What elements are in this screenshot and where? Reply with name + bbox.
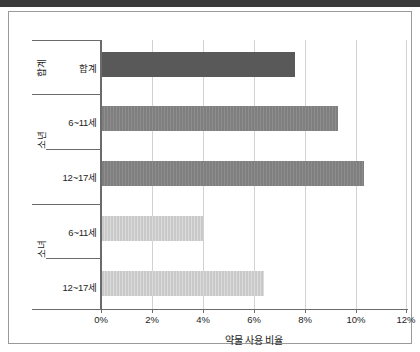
cat-right-border xyxy=(100,40,101,309)
xtick-label-0pct: 0% xyxy=(94,314,108,325)
xtick-label-4pct: 4% xyxy=(196,314,210,325)
group-label-boys: 소년 xyxy=(34,124,48,156)
cat-label-boys-12to17: 12~17세 xyxy=(63,170,97,184)
chart-frame: 합계 소년 소녀 합계 6~11세 12~17세 6~11세 12~17세 0%… xyxy=(8,11,412,344)
cat-separator-bottom xyxy=(32,309,101,310)
bar-girls-12to17[interactable] xyxy=(101,271,264,296)
x-axis-title: 약물 사용 비율 xyxy=(101,332,407,347)
tick-mark-4pct xyxy=(203,309,204,313)
xtick-label-2pct: 2% xyxy=(145,314,159,325)
tick-mark-8pct xyxy=(305,309,306,313)
bar-boys-6to11[interactable] xyxy=(101,106,338,131)
xtick-label-6pct: 6% xyxy=(247,314,261,325)
xtick-label-10pct: 10% xyxy=(346,314,365,325)
xtick-label-12pct: 12% xyxy=(396,314,415,325)
gridline-12pct xyxy=(406,40,407,309)
bar-girls-6to11[interactable] xyxy=(101,216,203,241)
tick-mark-0pct xyxy=(101,309,102,313)
tick-mark-6pct xyxy=(254,309,255,313)
cat-separator-total-boys xyxy=(32,94,101,95)
y-axis-line xyxy=(101,40,102,310)
tick-mark-10pct xyxy=(356,309,357,313)
plot-area xyxy=(101,40,407,309)
page-scan-artifact xyxy=(0,0,420,7)
cat-separator-girls-ages xyxy=(46,258,101,259)
xtick-label-8pct: 8% xyxy=(298,314,312,325)
cat-label-boys-6to11: 6~11세 xyxy=(68,115,97,129)
cat-separator-boys-ages xyxy=(46,149,101,150)
category-axis-table: 합계 소년 소녀 합계 6~11세 12~17세 6~11세 12~17세 xyxy=(32,40,101,309)
group-label-total: 합계 xyxy=(34,52,48,84)
cat-separator-top xyxy=(32,40,101,41)
cat-label-girls-6to11: 6~11세 xyxy=(68,225,97,239)
bar-boys-12to17[interactable] xyxy=(101,161,364,186)
cat-separator-boys-girls xyxy=(32,204,101,205)
group-label-girls: 소녀 xyxy=(34,233,48,265)
tick-mark-2pct xyxy=(152,309,153,313)
bar-total[interactable] xyxy=(101,52,295,77)
tick-mark-12pct xyxy=(406,309,407,313)
cat-label-total: 합계 xyxy=(79,61,97,75)
cat-label-girls-12to17: 12~17세 xyxy=(63,280,97,294)
